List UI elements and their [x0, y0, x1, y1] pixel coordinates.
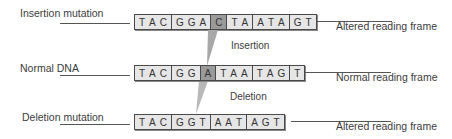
nucleotide: G	[186, 68, 198, 79]
nucleotide: A	[240, 17, 251, 28]
codon-group: AAT	[211, 115, 247, 129]
codon-group: T	[290, 66, 304, 80]
nucleotide: C	[158, 68, 169, 79]
nucleotide: G	[275, 68, 287, 79]
nucleotide: A	[147, 17, 158, 28]
deletion-frame-label: Altered reading frame	[336, 120, 437, 132]
deletion-label-line	[60, 124, 130, 125]
deletion-strand: TACGGTAATAGT	[134, 114, 285, 130]
nucleotide: G	[186, 117, 198, 128]
nucleotide: T	[292, 68, 302, 79]
codon-group: GGT	[172, 115, 211, 129]
nucleotide: C	[158, 17, 169, 28]
normal-dna-label: Normal DNA	[20, 62, 79, 74]
nucleotide: T	[218, 68, 228, 79]
nucleotide: A	[228, 68, 239, 79]
codon-group: TAA	[216, 66, 252, 80]
insertion-mutation-label: Insertion mutation	[20, 7, 103, 19]
codon-group: TA	[227, 15, 253, 29]
nucleotide: T	[137, 68, 147, 79]
normal-frame-label: Normal reading frame	[336, 71, 438, 83]
nucleotide: G	[174, 117, 186, 128]
nucleotide: T	[137, 17, 147, 28]
nucleotide: G	[292, 17, 304, 28]
nucleotide: A	[223, 117, 234, 128]
nucleotide: G	[174, 17, 186, 28]
nucleotide: A	[255, 17, 266, 28]
codon-group: TAC	[135, 66, 172, 80]
insertion-frame-label: Altered reading frame	[336, 20, 437, 32]
nucleotide: A	[276, 17, 287, 28]
nucleotide: A	[265, 68, 276, 79]
codon-group: AGT	[247, 115, 284, 129]
insertion-label-line	[60, 23, 130, 24]
codon-group: GT	[290, 15, 316, 29]
nucleotide: A	[249, 117, 260, 128]
deletion-transition-label: Deletion	[230, 91, 267, 102]
nucleotide: T	[137, 117, 147, 128]
codon-group: GGA	[172, 15, 211, 29]
nucleotide: T	[272, 117, 282, 128]
mutated-base-group: C	[211, 15, 227, 29]
nucleotide: C	[213, 17, 224, 28]
nucleotide: T	[255, 68, 265, 79]
deletion-mutation-label: Deletion mutation	[22, 111, 104, 123]
nucleotide: A	[213, 117, 224, 128]
nucleotide: A	[239, 68, 250, 79]
codon-group: TAG	[253, 66, 291, 80]
codon-group: TAC	[135, 115, 172, 129]
nucleotide: A	[147, 68, 158, 79]
codon-group: GG	[172, 66, 201, 80]
normal-strand: TACGGATAATAGT	[134, 65, 305, 81]
codon-group: TAC	[135, 15, 172, 29]
nucleotide: G	[186, 17, 198, 28]
insertion-transition-label: Insertion	[231, 40, 269, 51]
mutated-base-group: A	[201, 66, 217, 80]
nucleotide: T	[266, 17, 276, 28]
nucleotide: T	[229, 17, 239, 28]
nucleotide: T	[304, 17, 314, 28]
nucleotide: C	[158, 117, 169, 128]
nucleotide: T	[198, 117, 208, 128]
codon-group: ATA	[253, 15, 289, 29]
nucleotide: T	[234, 117, 244, 128]
nucleotide: G	[260, 117, 272, 128]
nucleotide: G	[174, 68, 186, 79]
nucleotide: A	[198, 17, 209, 28]
nucleotide: A	[147, 117, 158, 128]
normal-label-line	[60, 75, 130, 76]
insertion-strand: TACGGACTAATAGT	[134, 14, 317, 30]
nucleotide: A	[203, 68, 214, 79]
